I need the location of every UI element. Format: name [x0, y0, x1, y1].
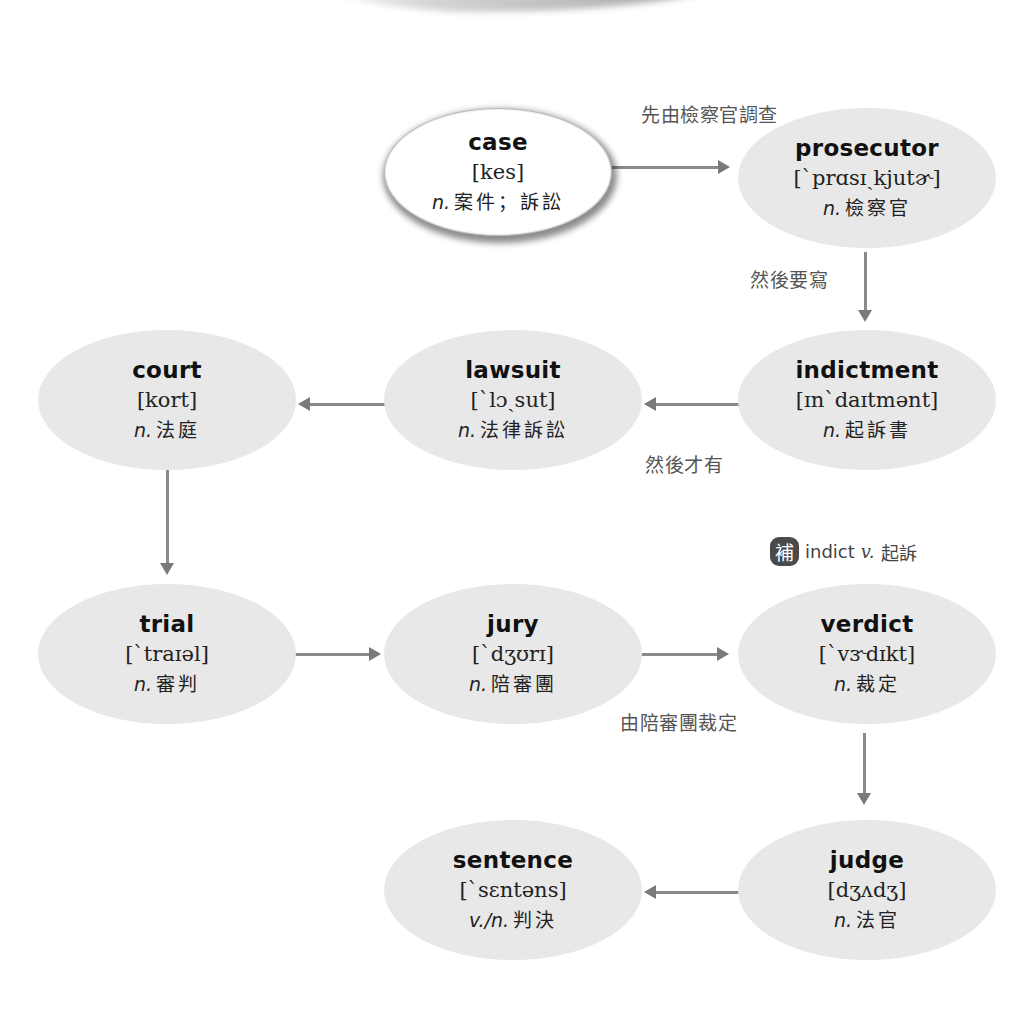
node-word: sentence — [453, 845, 573, 875]
node-word: judge — [830, 845, 904, 875]
node-phonetic: [ɪn`daɪtmənt] — [796, 385, 939, 415]
node-word: case — [468, 127, 528, 157]
arrow-jury-to-verdict — [641, 653, 719, 656]
node-trial: trial [`traɪəl] n.審判 — [38, 584, 296, 724]
node-verdict: verdict [`vɝdɪkt] n.裁定 — [738, 584, 996, 724]
node-word: indictment — [795, 355, 938, 385]
node-def-text: 法律訴訟 — [480, 419, 568, 441]
node-pos: v./n. — [469, 909, 509, 931]
node-definition: n.法官 — [834, 905, 900, 935]
supplement-word: indict — [805, 541, 855, 562]
arrow-trial-to-jury — [293, 653, 371, 656]
node-phonetic: [`traɪəl] — [125, 639, 209, 669]
node-definition: n.起訴書 — [823, 415, 911, 445]
supplement-definition: 起訴 — [881, 539, 917, 565]
node-pos: n. — [432, 191, 450, 213]
supplement-badge-icon: 補 — [770, 537, 799, 566]
arrow-lawsuit-to-court — [308, 403, 385, 406]
node-word: court — [132, 355, 202, 385]
node-case: case [kes] n.案件；訴訟 — [384, 108, 612, 236]
node-pos: n. — [823, 197, 841, 219]
node-word: lawsuit — [465, 355, 561, 385]
node-definition: n.陪審團 — [469, 669, 557, 699]
node-pos: n. — [469, 673, 487, 695]
node-definition: n.法律訴訟 — [458, 415, 568, 445]
node-definition: n.法庭 — [134, 415, 200, 445]
node-phonetic: [`prɑsɪˏkjutɚ] — [793, 163, 940, 193]
node-pos: n. — [834, 909, 852, 931]
arrow-court-to-trial — [166, 465, 169, 565]
node-pos: n. — [823, 419, 841, 441]
node-pos: n. — [134, 419, 152, 441]
caption-indictment-to-lawsuit: 然後才有 — [645, 450, 723, 477]
node-definition: n.檢察官 — [823, 193, 911, 223]
node-def-text: 起訴書 — [845, 419, 911, 441]
node-definition: n.審判 — [134, 669, 200, 699]
node-def-text: 陪審團 — [491, 673, 557, 695]
node-pos: n. — [834, 673, 852, 695]
node-lawsuit: lawsuit [`lɔˏsut] n.法律訴訟 — [384, 330, 642, 470]
node-definition: n.裁定 — [834, 669, 900, 699]
node-word: prosecutor — [795, 133, 939, 163]
decorative-shadow — [290, 0, 770, 12]
caption-case-to-prosecutor: 先由檢察官調查 — [641, 100, 778, 127]
caption-jury-to-verdict: 由陪審團裁定 — [620, 708, 737, 735]
node-definition: n.案件；訴訟 — [432, 187, 564, 217]
node-def-text: 檢察官 — [845, 197, 911, 219]
node-phonetic: [dʒʌdʒ] — [828, 875, 907, 905]
node-word: trial — [139, 609, 194, 639]
node-prosecutor: prosecutor [`prɑsɪˏkjutɚ] n.檢察官 — [738, 108, 996, 248]
node-phonetic: [kes] — [472, 157, 524, 187]
arrow-case-to-prosecutor — [610, 166, 720, 169]
node-judge: judge [dʒʌdʒ] n.法官 — [738, 820, 996, 960]
node-word: jury — [487, 609, 539, 639]
node-pos: n. — [134, 673, 152, 695]
node-indictment: indictment [ɪn`daɪtmənt] n.起訴書 — [738, 330, 996, 470]
supplement-note: 補 indict v. 起訴 — [770, 537, 917, 566]
node-phonetic: [`sɛntəns] — [459, 875, 566, 905]
node-pos: n. — [458, 419, 476, 441]
arrow-verdict-to-judge — [863, 733, 866, 795]
node-def-text: 審判 — [156, 673, 200, 695]
arrow-prosecutor-to-indictment — [864, 252, 867, 312]
node-def-text: 法庭 — [156, 419, 200, 441]
node-phonetic: [`dʒʊrɪ] — [472, 639, 554, 669]
node-def-text: 判決 — [513, 909, 557, 931]
caption-prosecutor-to-indictment: 然後要寫 — [750, 265, 828, 292]
node-sentence: sentence [`sɛntəns] v./n.判決 — [384, 820, 642, 960]
node-phonetic: [`vɝdɪkt] — [819, 639, 915, 669]
node-def-text: 案件；訴訟 — [454, 191, 564, 213]
node-def-text: 法官 — [856, 909, 900, 931]
node-jury: jury [`dʒʊrɪ] n.陪審團 — [384, 584, 642, 724]
node-phonetic: [kort] — [137, 385, 197, 415]
node-def-text: 裁定 — [856, 673, 900, 695]
arrow-indictment-to-lawsuit — [654, 403, 740, 406]
arrow-judge-to-sentence — [654, 891, 740, 894]
node-phonetic: [`lɔˏsut] — [470, 385, 555, 415]
supplement-pos: v. — [861, 541, 875, 562]
node-word: verdict — [820, 609, 913, 639]
node-definition: v./n.判決 — [469, 905, 557, 935]
node-court: court [kort] n.法庭 — [38, 330, 296, 470]
